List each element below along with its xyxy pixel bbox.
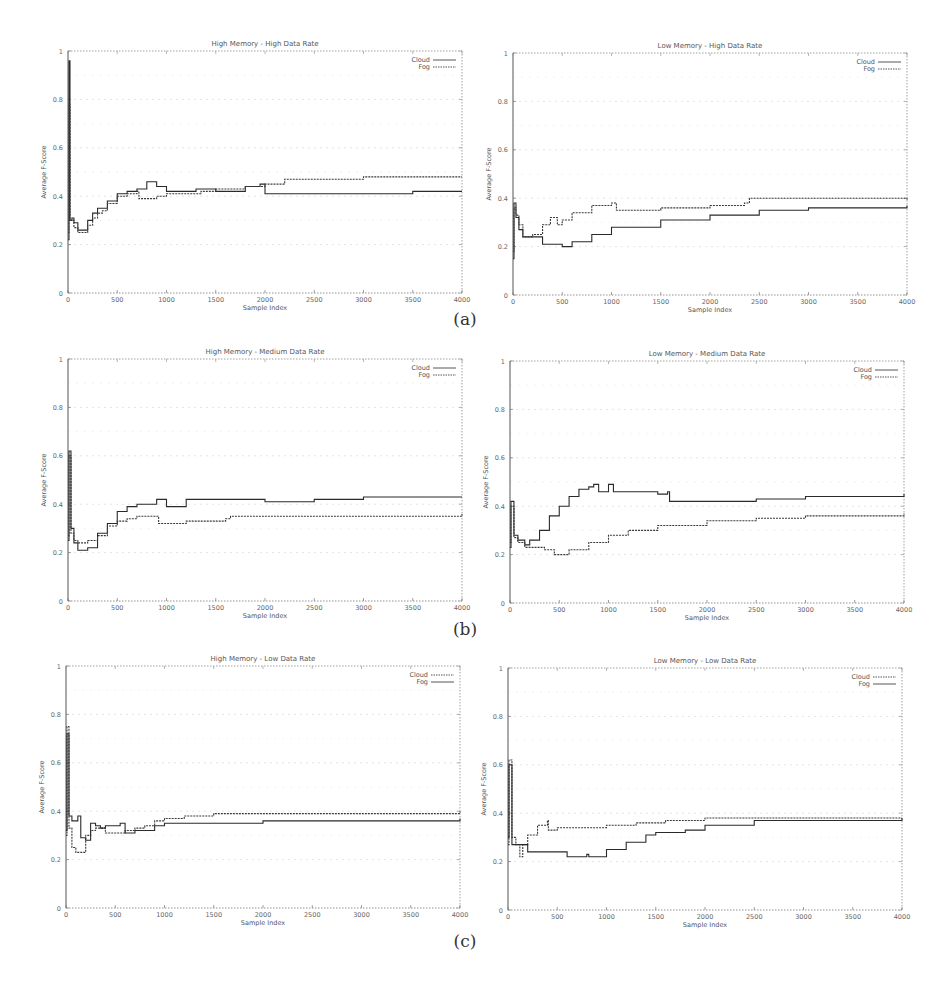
x-tick-label: 1000	[598, 913, 615, 921]
y-axis-label: Average F-Score	[485, 147, 493, 200]
y-tick-label: 0.8	[498, 98, 508, 106]
x-tick-label: 3000	[797, 606, 814, 614]
x-tick-label: 0	[64, 911, 68, 919]
y-axis-label: Average F-Score	[482, 455, 490, 508]
x-tick-label: 3500	[849, 298, 866, 306]
x-tick-label: 2500	[306, 604, 323, 612]
x-tick-label: 1500	[207, 604, 224, 612]
x-axis-label: Sample Index	[243, 612, 287, 620]
y-tick-label: 1	[59, 48, 63, 56]
x-tick-label: 1000	[603, 298, 620, 306]
chart-svg: Low Memory - Low Data Rate05001000150020…	[470, 647, 920, 927]
y-tick-label: 0.4	[51, 808, 61, 816]
y-tick-label: 0.6	[493, 761, 503, 769]
x-tick-label: 1500	[652, 298, 669, 306]
x-axis-label: Sample Index	[685, 614, 729, 622]
y-tick-label: 0.4	[495, 503, 505, 511]
y-tick-label: 0	[501, 600, 505, 608]
y-tick-label: 0.6	[51, 759, 61, 767]
x-tick-label: 0	[66, 296, 70, 304]
x-tick-label: 3500	[404, 604, 421, 612]
chart-svg: Low Memory - Medium Data Rate05001000150…	[472, 340, 922, 620]
x-tick-label: 0	[508, 606, 512, 614]
series-cloud-line	[68, 451, 462, 550]
x-tick-label: 3000	[353, 911, 370, 919]
y-tick-label: 0.6	[53, 452, 63, 460]
y-tick-label: 0.2	[53, 549, 63, 557]
x-tick-label: 4000	[896, 606, 913, 614]
legend-label-fog: Fog	[418, 371, 430, 379]
y-tick-label: 0.2	[51, 856, 61, 864]
x-tick-label: 2000	[255, 911, 272, 919]
chart-svg: High Memory - Low Data Rate0500100015002…	[28, 645, 478, 925]
x-tick-label: 1500	[205, 911, 222, 919]
y-tick-label: 0.6	[498, 146, 508, 154]
x-tick-label: 3500	[404, 296, 421, 304]
x-tick-label: 0	[511, 298, 515, 306]
x-tick-label: 4000	[894, 913, 911, 921]
chart-title: High Memory - Medium Data Rate	[206, 348, 325, 356]
chart-low-memory-low-data-rate: Low Memory - Low Data Rate05001000150020…	[470, 647, 920, 927]
y-tick-label: 0.2	[493, 858, 503, 866]
chart-low-memory-medium-data-rate: Low Memory - Medium Data Rate05001000150…	[472, 340, 922, 620]
y-axis-label: Average F-Score	[40, 453, 48, 506]
x-tick-label: 0	[66, 604, 70, 612]
x-tick-label: 1500	[207, 296, 224, 304]
y-tick-label: 0	[499, 907, 503, 915]
x-tick-label: 3000	[355, 604, 372, 612]
legend-label-fog: Fog	[860, 373, 872, 381]
series-fog-line	[66, 734, 460, 840]
y-tick-label: 0.2	[495, 551, 505, 559]
x-tick-label: 2000	[697, 913, 714, 921]
y-tick-label: 0.6	[53, 144, 63, 152]
y-tick-label: 0	[59, 290, 63, 298]
y-tick-label: 0	[59, 598, 63, 606]
caption-c: (c)	[435, 931, 495, 951]
x-tick-label: 2500	[746, 913, 763, 921]
x-tick-label: 4000	[454, 296, 471, 304]
x-tick-label: 4000	[452, 911, 469, 919]
x-tick-label: 2500	[748, 606, 765, 614]
y-tick-label: 0.6	[495, 454, 505, 462]
chart-svg: Low Memory - High Data Rate0500100015002…	[475, 32, 925, 312]
x-tick-label: 3000	[355, 296, 372, 304]
y-tick-label: 0.4	[498, 195, 508, 203]
x-tick-label: 0	[506, 913, 510, 921]
x-axis-label: Sample Index	[241, 919, 285, 927]
x-tick-label: 1500	[649, 606, 666, 614]
x-tick-label: 1000	[156, 911, 173, 919]
series-cloud-line	[508, 760, 902, 857]
y-tick-label: 0.8	[493, 713, 503, 721]
x-axis-label: Sample Index	[688, 306, 732, 314]
x-tick-label: 500	[111, 604, 123, 612]
x-tick-label: 2500	[304, 911, 321, 919]
y-tick-label: 0.8	[51, 711, 61, 719]
caption-b: (b)	[435, 619, 495, 639]
y-tick-label: 0	[57, 905, 61, 913]
legend-label-fog: Fog	[418, 63, 430, 71]
x-tick-label: 1500	[647, 913, 664, 921]
x-tick-label: 3000	[800, 298, 817, 306]
chart-title: Low Memory - Medium Data Rate	[649, 350, 766, 358]
y-tick-label: 1	[59, 356, 63, 364]
x-tick-label: 2500	[751, 298, 768, 306]
x-tick-label: 2000	[257, 296, 274, 304]
chart-low-memory-high-data-rate: Low Memory - High Data Rate0500100015002…	[475, 32, 925, 312]
y-tick-label: 1	[504, 50, 508, 58]
series-fog-line	[510, 506, 904, 554]
chart-svg: High Memory - High Data Rate050010001500…	[30, 30, 480, 310]
x-tick-label: 3000	[795, 913, 812, 921]
x-tick-label: 3500	[846, 606, 863, 614]
x-tick-label: 4000	[899, 298, 916, 306]
x-axis-label: Sample Index	[243, 304, 287, 312]
y-tick-label: 0.4	[53, 501, 63, 509]
y-tick-label: 0.4	[493, 810, 503, 818]
y-tick-label: 1	[501, 358, 505, 366]
y-tick-label: 0.8	[495, 406, 505, 414]
chart-high-memory-high-data-rate: High Memory - High Data Rate050010001500…	[30, 30, 480, 310]
x-tick-label: 2500	[306, 296, 323, 304]
x-tick-label: 1000	[158, 604, 175, 612]
legend-label-fog: Fog	[416, 678, 428, 686]
chart-high-memory-medium-data-rate: High Memory - Medium Data Rate0500100015…	[30, 338, 480, 618]
x-tick-label: 4000	[454, 604, 471, 612]
